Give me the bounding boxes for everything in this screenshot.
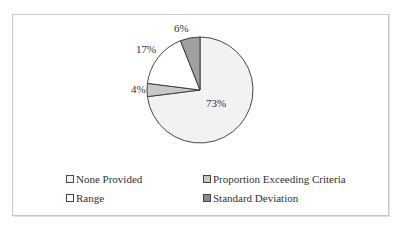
legend-swatch-icon [66,194,74,202]
legend-label: Proportion Exceeding Criteria [213,173,346,185]
label-std-dev: 6% [174,22,189,34]
legend-label: None Provided [76,173,142,185]
label-none-provided: 73% [206,97,226,109]
legend-swatch-icon [66,175,74,183]
legend-item-none-provided: None Provided [66,173,142,185]
legend-label: Standard Deviation [213,192,298,204]
pie-chart [0,0,399,227]
legend-item-range: Range [66,192,104,204]
legend-item-proportion: Proportion Exceeding Criteria [203,173,346,185]
legend-label: Range [76,192,104,204]
label-proportion: 4% [131,83,146,95]
legend-swatch-icon [203,175,211,183]
legend-item-std-dev: Standard Deviation [203,192,298,204]
legend-swatch-icon [203,194,211,202]
label-range: 17% [136,43,156,55]
